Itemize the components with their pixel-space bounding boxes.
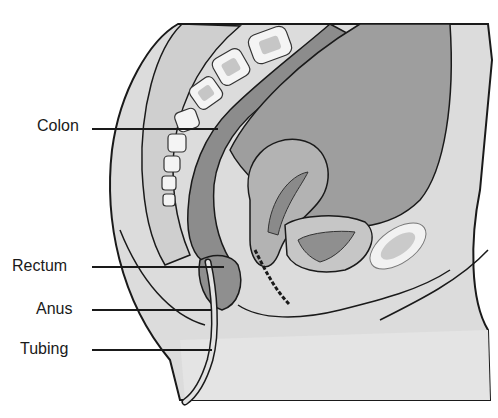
lower-body-tissue xyxy=(180,330,490,400)
label-tubing: Tubing xyxy=(20,340,68,358)
leader-line-anus xyxy=(92,309,212,311)
anatomical-diagram xyxy=(0,0,498,418)
leader-line-rectum xyxy=(92,266,224,268)
leader-line-tubing xyxy=(92,349,212,351)
label-colon: Colon xyxy=(37,117,79,135)
leader-line-colon xyxy=(92,128,218,130)
label-anus: Anus xyxy=(36,300,72,318)
figure-caption-cropped xyxy=(0,408,498,418)
label-rectum: Rectum xyxy=(12,257,67,275)
